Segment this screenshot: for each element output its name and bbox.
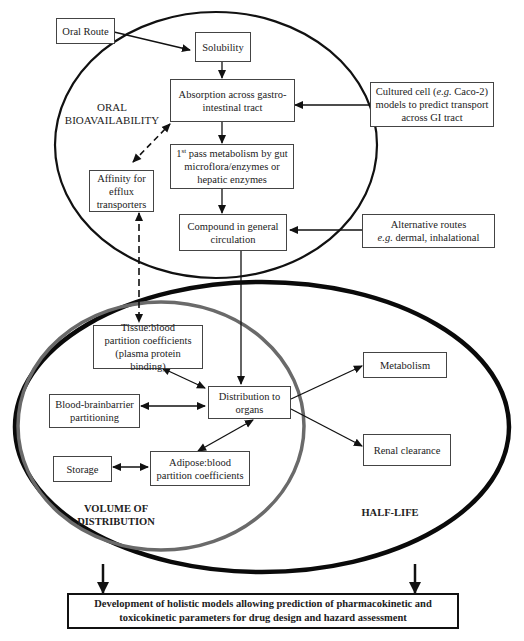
affinity-efflux-box: Affinity for efflux transporters xyxy=(89,170,154,212)
tissue-line1: Tissue:blood xyxy=(97,321,199,334)
affinity-line1: Affinity for xyxy=(97,172,147,185)
distribution-line2: organs xyxy=(219,403,281,416)
oral-label-line1: ORAL xyxy=(60,101,164,114)
alternative-line1: Alternative routes xyxy=(378,218,480,231)
bbb-line1: Blood-brainbarrier xyxy=(55,398,134,411)
distribution-line1: Distribution to xyxy=(219,390,281,403)
absorption-line1: Absorption across gastro- xyxy=(179,88,287,101)
cultured-prefix: Cultured cell ( xyxy=(376,86,437,97)
volume-label-line1: VOLUME OF xyxy=(72,502,160,515)
half-life-label: HALF-LIFE xyxy=(350,506,430,519)
cultured-suffix: Caco-2) xyxy=(452,86,488,97)
blood-brain-barrier-box: Blood-brainbarrier partitioning xyxy=(49,394,140,428)
cultured-line2: models to predict transport xyxy=(376,98,489,111)
adipose-line1: Adipose:blood xyxy=(157,456,244,469)
oral-route-box: Oral Route xyxy=(56,18,115,44)
cultured-cell-box: Cultured cell (e.g. Caco-2) models to pr… xyxy=(370,82,494,127)
adipose-blood-box: Adipose:blood partition coefficients xyxy=(150,451,250,486)
final-line1: Development of holistic models allowing … xyxy=(94,597,432,611)
absorption-line2: intestinal tract xyxy=(179,101,287,114)
solubility-box: Solubility xyxy=(195,32,251,62)
storage-text: Storage xyxy=(66,463,98,476)
oral-bioavailability-label: ORAL BIOAVAILABILITY xyxy=(60,101,164,127)
volume-label-line2: DISTRIBUTION xyxy=(72,515,160,528)
first-pass-line2: microflora/enzymes or xyxy=(176,160,287,173)
absorption-box: Absorption across gastro- intestinal tra… xyxy=(170,79,295,122)
alternative-routes-box: Alternative routes e.g. dermal, inhalati… xyxy=(362,214,495,248)
storage-box: Storage xyxy=(53,456,112,482)
first-pass-line1: pass metabolism by gut xyxy=(186,148,288,159)
tissue-line3: (plasma protein binding) xyxy=(97,347,199,373)
volume-of-distribution-label: VOLUME OF DISTRIBUTION xyxy=(72,502,160,528)
affinity-line2: efflux xyxy=(97,185,147,198)
tissue-line2: partition coefficients xyxy=(97,334,199,347)
bbb-line2: partitioning xyxy=(55,411,134,424)
first-pass-metabolism-box: 1st pass metabolism by gut microflora/en… xyxy=(170,144,294,189)
alternative-eg: e.g. xyxy=(378,232,393,243)
final-line2: toxicokinetic parameters for drug design… xyxy=(94,611,432,625)
affinity-line3: transporters xyxy=(97,198,147,211)
metabolism-box: Metabolism xyxy=(363,352,447,378)
distribution-organs-box: Distribution to organs xyxy=(208,386,291,419)
alternative-line2: dermal, inhalational xyxy=(393,232,480,243)
cultured-line3: across GI tract xyxy=(376,111,489,124)
cultured-eg: e.g. xyxy=(437,86,452,97)
compound-line2: circulation xyxy=(188,233,279,246)
adipose-line2: partition coefficients xyxy=(157,469,244,482)
compound-line1: Compound in general xyxy=(188,220,279,233)
metabolism-text: Metabolism xyxy=(380,359,430,372)
tissue-blood-box: Tissue:blood partition coefficients (pla… xyxy=(93,325,203,369)
solubility-text: Solubility xyxy=(202,41,243,54)
renal-text: Renal clearance xyxy=(374,444,441,457)
renal-clearance-box: Renal clearance xyxy=(363,434,451,466)
oral-label-line2: BIOAVAILABILITY xyxy=(60,114,164,127)
compound-circulation-box: Compound in general circulation xyxy=(179,214,287,251)
oral-route-text: Oral Route xyxy=(62,25,108,38)
first-pass-line3: hepatic enzymes xyxy=(176,173,287,186)
holistic-models-box: Development of holistic models allowing … xyxy=(67,593,459,629)
